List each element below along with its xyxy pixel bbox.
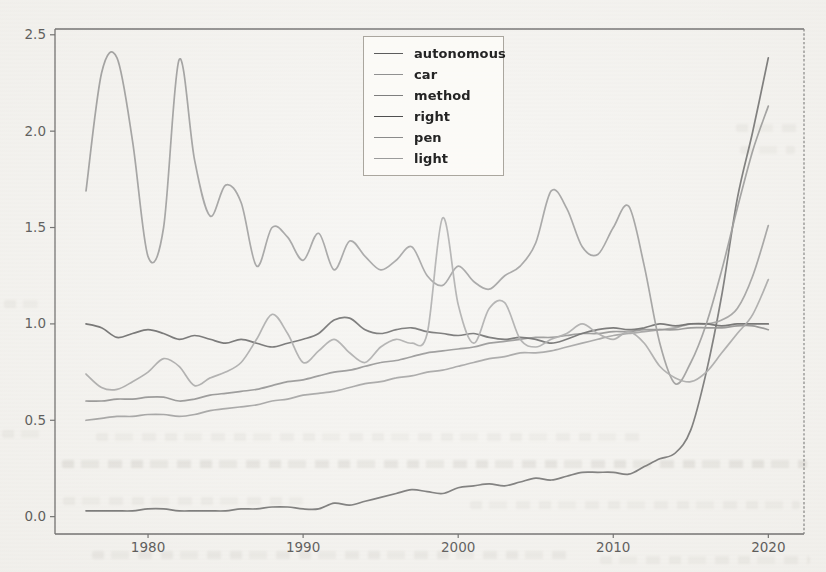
x-tick-label-2010: 2010 [596,539,630,555]
legend-item-light: light [374,148,495,169]
legend-label-light: light [414,152,448,165]
legend-swatch-method [374,95,403,96]
legend-label-right: right [414,110,450,123]
legend-item-right: right [374,106,495,127]
legend-swatch-pen [374,137,403,138]
y-tick-label-1.0: 1.0 [25,315,46,331]
legend-label-autonomous: autonomous [414,47,506,60]
legend-item-car: car [374,64,495,85]
legend-swatch-light [374,158,403,159]
x-tick-label-2020: 2020 [751,539,785,555]
legend-swatch-autonomous [374,53,403,54]
y-tick-label-0.5: 0.5 [25,412,46,428]
legend-swatch-car [374,74,403,75]
x-tick-label-1980: 1980 [131,539,165,555]
y-tick-label-1.5: 1.5 [25,219,46,235]
y-tick-label-2.0: 2.0 [25,123,46,139]
y-tick-label-2.5: 2.5 [25,26,46,42]
legend-label-method: method [414,89,471,102]
scanned-line-chart-figure: 198019902000201020200.00.51.01.52.02.5 a… [0,0,826,572]
y-tick-label-0.0: 0.0 [25,508,46,524]
legend: autonomouscarmethodrightpenlight [363,36,504,176]
legend-swatch-right [374,116,403,117]
x-tick-label-2000: 2000 [441,539,475,555]
legend-item-method: method [374,85,495,106]
legend-label-car: car [414,68,437,81]
x-tick-label-1990: 1990 [286,539,320,555]
legend-label-pen: pen [414,131,442,144]
legend-item-autonomous: autonomous [374,43,495,64]
series-path-car [86,226,768,421]
legend-item-pen: pen [374,127,495,148]
